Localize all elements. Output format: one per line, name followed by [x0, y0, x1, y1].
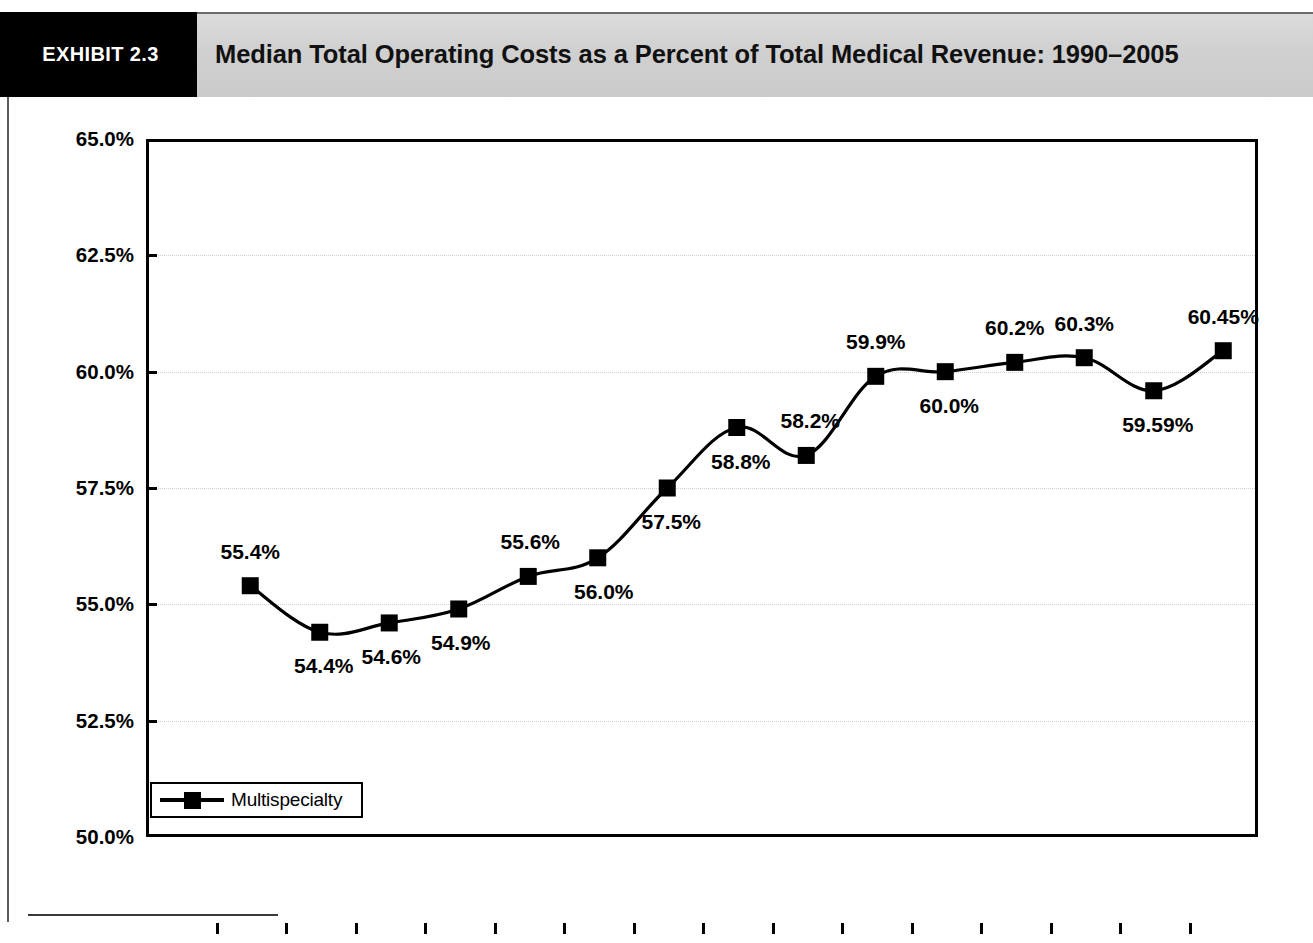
data-point-label: 55.4% — [220, 540, 280, 564]
y-tick-label: 65.0% — [0, 127, 134, 151]
exhibit-tag: EXHIBIT 2.3 — [0, 12, 197, 97]
data-point-label: 58.2% — [780, 409, 840, 433]
data-point-label: 54.6% — [361, 645, 421, 669]
y-tick-label: 50.0% — [0, 825, 134, 849]
y-tick-label: 52.5% — [0, 709, 134, 733]
y-tick-mark — [146, 371, 157, 374]
exhibit-header: EXHIBIT 2.3 Median Total Operating Costs… — [0, 12, 1313, 97]
data-point-label: 55.6% — [500, 530, 560, 554]
x-tick-mark — [494, 923, 497, 934]
y-tick-mark — [146, 603, 157, 606]
chart: 65.0%62.5%60.0%57.5%55.0%52.5%50.0% 1990… — [0, 97, 1313, 943]
gridline — [149, 721, 1255, 722]
x-tick-mark — [1050, 923, 1053, 934]
x-tick-mark — [563, 923, 566, 934]
data-point-label: 58.8% — [711, 450, 771, 474]
data-point-label: 59.59% — [1122, 413, 1193, 437]
gridline — [149, 488, 1255, 489]
data-point-label: 56.0% — [574, 580, 634, 604]
x-tick-mark — [841, 923, 844, 934]
gridline — [149, 604, 1255, 605]
gridline — [149, 372, 1255, 373]
y-tick-label: 60.0% — [0, 360, 134, 384]
y-tick-mark — [146, 487, 157, 490]
exhibit-page: EXHIBIT 2.3 Median Total Operating Costs… — [0, 0, 1313, 943]
x-tick-mark — [702, 923, 705, 934]
legend-marker-icon — [160, 791, 224, 809]
exhibit-title: Median Total Operating Costs as a Percen… — [215, 12, 1179, 97]
x-tick-mark — [355, 923, 358, 934]
x-tick-mark — [424, 923, 427, 934]
y-tick-mark — [146, 254, 157, 257]
x-tick-mark — [980, 923, 983, 934]
x-tick-mark — [1119, 923, 1122, 934]
x-tick-mark — [911, 923, 914, 934]
x-tick-mark — [216, 923, 219, 934]
data-point-label: 60.3% — [1054, 312, 1114, 336]
plot-area — [146, 139, 1258, 837]
y-tick-label: 57.5% — [0, 476, 134, 500]
y-tick-label: 62.5% — [0, 243, 134, 267]
x-tick-mark — [772, 923, 775, 934]
y-tick-label: 55.0% — [0, 592, 134, 616]
data-point-label: 60.45% — [1188, 305, 1259, 329]
gridline — [149, 255, 1255, 256]
x-tick-mark — [633, 923, 636, 934]
exhibit-tag-label: EXHIBIT 2.3 — [42, 43, 159, 66]
y-tick-mark — [146, 720, 157, 723]
data-point-label: 60.0% — [919, 394, 979, 418]
x-tick-mark — [285, 923, 288, 934]
data-point-label: 57.5% — [641, 510, 701, 534]
data-point-label: 54.9% — [431, 631, 491, 655]
data-point-label: 59.9% — [846, 330, 906, 354]
legend-label-multispecialty: Multispecialty — [231, 789, 342, 811]
chart-legend: Multispecialty — [150, 782, 363, 818]
data-point-label: 54.4% — [294, 654, 354, 678]
x-tick-mark — [1189, 923, 1192, 934]
data-point-label: 60.2% — [985, 316, 1045, 340]
